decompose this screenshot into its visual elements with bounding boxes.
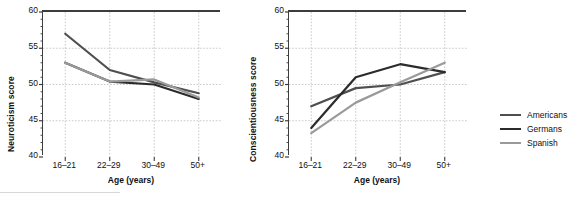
legend-item-germans[interactable]: Germans (500, 122, 585, 136)
series-lines (289, 12, 467, 157)
x-tick-label: 22–29 (343, 160, 367, 170)
y-tick-label: 40 (275, 150, 284, 160)
y-tick-label: 50 (275, 78, 284, 88)
x-tick-label: 16–21 (52, 160, 76, 170)
x-tick-label: 50+ (191, 160, 205, 170)
x-tick-label: 30–49 (387, 160, 411, 170)
plot-frame (288, 10, 466, 155)
y-axis-title: Conscientiousness score (248, 12, 258, 162)
x-axis-title: Age (years) (354, 175, 400, 185)
y-tick-label: 55 (275, 41, 284, 51)
y-tick-label: 45 (275, 114, 284, 124)
legend-swatch-icon (500, 142, 521, 145)
y-axis-title: Neuroticism score (6, 22, 16, 152)
y-tick-label: 60 (29, 5, 38, 15)
y-tick-label: 50 (29, 78, 38, 88)
series-line-americans (311, 72, 445, 106)
legend-item-spanish[interactable]: Spanish (500, 136, 585, 150)
legend-label: Americans (527, 110, 567, 120)
legend-item-americans[interactable]: Americans (500, 108, 585, 122)
x-tick-label: 30–49 (141, 160, 165, 170)
chart-panel-conscientiousness: Conscientiousness score Age (years) 4045… (243, 0, 488, 200)
y-tick-label: 60 (275, 5, 284, 15)
y-tick-label: 55 (29, 41, 38, 51)
x-axis-title: Age (years) (108, 175, 154, 185)
legend-swatch-icon (500, 114, 521, 117)
bottom-rule (0, 192, 120, 193)
plot-area-conscientiousness: Age (years) 404550556016–2122–2930–4950+ (288, 10, 466, 155)
series-lines (43, 12, 221, 157)
legend: AmericansGermansSpanish (500, 108, 585, 150)
x-tick-label: 50+ (437, 160, 451, 170)
legend-swatch-icon (500, 128, 521, 131)
legend-label: Spanish (527, 138, 558, 148)
y-tick-label: 45 (29, 114, 38, 124)
legend-label: Germans (527, 124, 562, 134)
plot-frame (42, 10, 220, 155)
y-tick-label: 40 (29, 150, 38, 160)
x-tick-label: 16–21 (298, 160, 322, 170)
x-tick-label: 22–29 (97, 160, 121, 170)
plot-area-neuroticism: Age (years) 404550556016–2122–2930–4950+ (42, 10, 220, 155)
chart-panel-neuroticism: Neuroticism score Age (years) 4045505560… (0, 0, 240, 200)
figure: Neuroticism score Age (years) 4045505560… (0, 0, 585, 200)
